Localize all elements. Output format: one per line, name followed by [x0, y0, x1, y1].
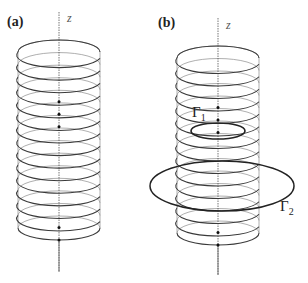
current-arrow-icon	[217, 119, 220, 122]
current-arrow-icon	[217, 231, 220, 234]
current-arrow-icon	[217, 244, 220, 247]
panel-b-label: (b)	[158, 15, 175, 31]
current-arrow-icon	[58, 239, 61, 242]
panel-b	[150, 18, 294, 275]
panel-a	[17, 12, 100, 272]
gamma-2-label: Γ2	[280, 198, 294, 217]
current-arrow-icon	[217, 106, 220, 109]
gamma-1-label: Γ1	[192, 104, 206, 123]
panel-a-label: (a)	[7, 14, 24, 30]
solenoid-diagram: (a) z (b) z Γ1 Γ2	[0, 0, 308, 283]
current-arrow-icon	[58, 226, 61, 229]
current-arrow-icon	[58, 100, 61, 103]
current-arrow-icon	[217, 131, 220, 134]
current-arrow-icon	[58, 125, 61, 128]
current-arrow-icon	[58, 113, 61, 116]
panel-b-z-axis-label: z	[225, 18, 231, 32]
panel-a-z-axis-label: z	[66, 11, 72, 25]
